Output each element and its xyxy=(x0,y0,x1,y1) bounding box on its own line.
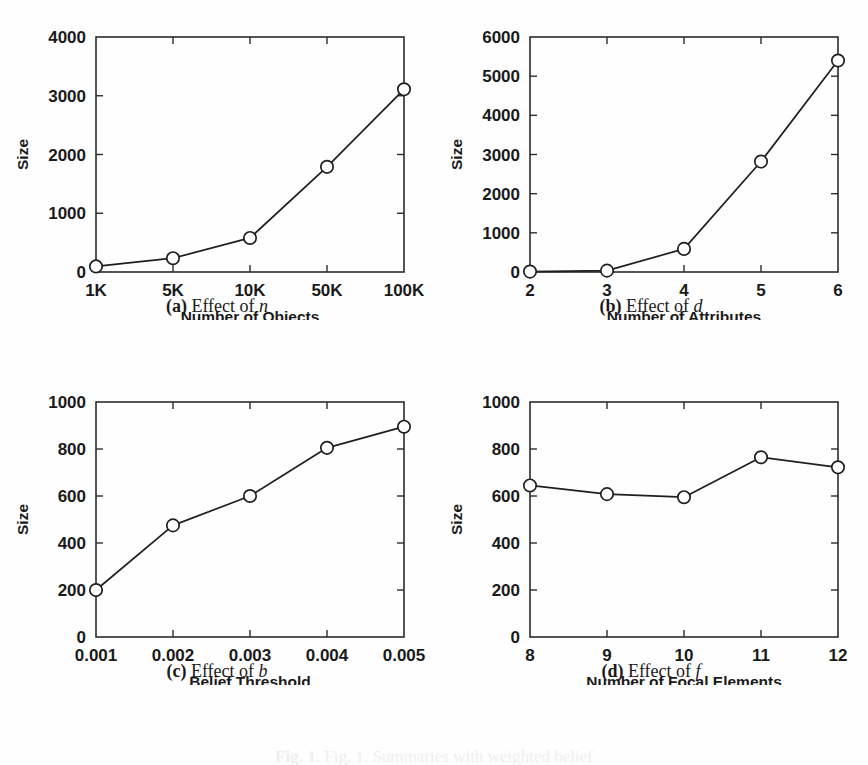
data-point-marker xyxy=(244,232,256,244)
plot-d: 0200400600800100089101112Number of Focal… xyxy=(434,365,868,685)
y-tick-label: 600 xyxy=(58,487,86,506)
subcaption-b-tag: (b) xyxy=(599,296,621,316)
y-tick-label: 200 xyxy=(58,581,86,600)
y-tick-label: 800 xyxy=(492,440,520,459)
figure-caption-tag: Fig. 1. xyxy=(275,747,320,765)
y-tick-label: 1000 xyxy=(482,393,520,412)
plot-frame xyxy=(96,402,404,637)
y-axis-title: Size xyxy=(448,139,465,170)
y-tick-label: 2000 xyxy=(48,146,86,165)
subcaption-a: (a) Effect of n xyxy=(0,296,434,317)
y-tick-label: 200 xyxy=(492,581,520,600)
data-point-marker xyxy=(167,519,179,531)
y-tick-label: 2000 xyxy=(482,185,520,204)
plot-frame xyxy=(530,37,838,272)
figure-page: 010002000300040001K5K10K50K100KNumber of… xyxy=(0,0,868,765)
y-tick-label: 0 xyxy=(511,263,520,282)
subcaption-c-tag: (c) xyxy=(166,661,186,681)
y-tick-label: 0 xyxy=(511,628,520,647)
subcaption-c-var: b xyxy=(259,661,268,681)
data-point-marker xyxy=(90,260,102,272)
y-tick-label: 4000 xyxy=(48,28,86,47)
subcaption-b-text: Effect of xyxy=(626,296,689,316)
subcaption-b-var: d xyxy=(694,296,703,316)
y-tick-label: 0 xyxy=(77,263,86,282)
y-tick-label: 3000 xyxy=(48,87,86,106)
y-tick-label: 3000 xyxy=(482,146,520,165)
subcaption-d: (d) Effect of f xyxy=(434,661,868,682)
data-point-marker xyxy=(398,83,410,95)
data-point-marker xyxy=(321,442,333,454)
figure-caption-text: Fig. 1. Summaries with weighted belief xyxy=(324,747,593,765)
data-point-marker xyxy=(244,490,256,502)
data-point-marker xyxy=(90,584,102,596)
y-tick-label: 600 xyxy=(492,487,520,506)
y-tick-label: 0 xyxy=(77,628,86,647)
subcaption-d-var: f xyxy=(696,661,701,681)
data-point-marker xyxy=(755,155,767,167)
subcaption-c: (c) Effect of b xyxy=(0,661,434,682)
y-tick-label: 1000 xyxy=(48,204,86,223)
data-point-marker xyxy=(601,488,613,500)
subplot-grid: 010002000300040001K5K10K50K100KNumber of… xyxy=(0,0,868,730)
panel-c: 020040060080010000.0010.0020.0030.0040.0… xyxy=(0,365,434,730)
subcaption-a-tag: (a) xyxy=(166,296,187,316)
subcaption-c-text: Effect of xyxy=(191,661,254,681)
y-tick-label: 800 xyxy=(58,440,86,459)
data-point-marker xyxy=(524,479,536,491)
y-axis-title: Size xyxy=(14,504,31,535)
y-axis-title: Size xyxy=(14,139,31,170)
y-tick-label: 6000 xyxy=(482,28,520,47)
data-point-marker xyxy=(678,243,690,255)
y-tick-label: 1000 xyxy=(482,224,520,243)
y-tick-label: 4000 xyxy=(482,106,520,125)
figure-caption: Fig. 1. Fig. 1. Summaries with weighted … xyxy=(0,747,868,765)
data-point-marker xyxy=(321,161,333,173)
y-tick-label: 5000 xyxy=(482,67,520,86)
y-tick-label: 1000 xyxy=(48,393,86,412)
data-point-marker xyxy=(601,264,613,276)
series-line xyxy=(96,427,404,590)
plot-frame xyxy=(530,402,838,637)
panel-a: 010002000300040001K5K10K50K100KNumber of… xyxy=(0,0,434,365)
panel-d: 0200400600800100089101112Number of Focal… xyxy=(434,365,868,730)
subcaption-b: (b) Effect of d xyxy=(434,296,868,317)
y-tick-label: 400 xyxy=(58,534,86,553)
y-axis-title: Size xyxy=(448,504,465,535)
subcaption-a-text: Effect of xyxy=(191,296,254,316)
plot-a: 010002000300040001K5K10K50K100KNumber of… xyxy=(0,0,434,320)
data-point-marker xyxy=(678,491,690,503)
y-tick-label: 400 xyxy=(492,534,520,553)
subcaption-d-text: Effect of xyxy=(628,661,691,681)
data-point-marker xyxy=(524,265,536,277)
plot-b: 010002000300040005000600023456Number of … xyxy=(434,0,868,320)
data-point-marker xyxy=(398,420,410,432)
plot-c: 020040060080010000.0010.0020.0030.0040.0… xyxy=(0,365,434,685)
data-point-marker xyxy=(755,451,767,463)
data-point-marker xyxy=(832,54,844,66)
series-line xyxy=(530,61,838,272)
data-point-marker xyxy=(832,461,844,473)
subcaption-d-tag: (d) xyxy=(601,661,623,681)
data-point-marker xyxy=(167,252,179,264)
panel-b: 010002000300040005000600023456Number of … xyxy=(434,0,868,365)
subcaption-a-var: n xyxy=(259,296,268,316)
